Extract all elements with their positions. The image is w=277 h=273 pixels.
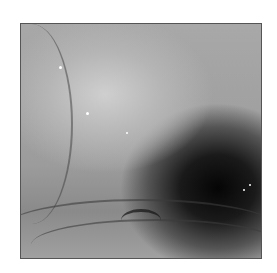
endoscopy-image (20, 23, 262, 259)
specular-highlight (249, 184, 251, 186)
specular-highlight (126, 132, 128, 134)
ulcer-crater (121, 209, 161, 232)
specular-highlight (86, 112, 89, 115)
specular-highlight (243, 189, 245, 191)
specular-highlight (59, 66, 62, 69)
